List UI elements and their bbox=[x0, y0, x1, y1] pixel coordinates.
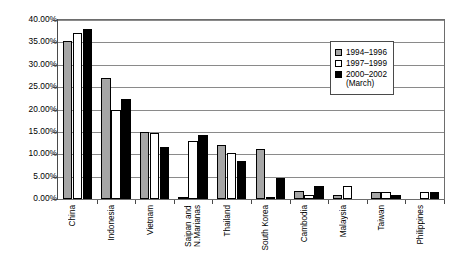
bar bbox=[237, 161, 247, 199]
bar-group bbox=[101, 20, 131, 199]
bar bbox=[217, 145, 227, 199]
legend-item: 2000–2002 (March) bbox=[335, 70, 387, 89]
bar bbox=[276, 178, 286, 199]
x-axis-tick-mark bbox=[367, 200, 368, 204]
y-axis-tick-label: 20.00% bbox=[5, 105, 57, 113]
x-axis-tick-label: Indonesia bbox=[107, 205, 116, 241]
bar-group bbox=[294, 20, 324, 199]
x-axis-tick-label: South Korea bbox=[261, 205, 270, 251]
x-axis-tick-label: Malaysia bbox=[339, 205, 348, 237]
x-axis-tick-mark bbox=[174, 200, 175, 204]
bar bbox=[294, 191, 304, 199]
x-axis-tick-label: Saipan and N.Marianas bbox=[184, 205, 202, 247]
bar-group bbox=[410, 20, 440, 199]
x-axis-tick-mark bbox=[135, 200, 136, 204]
legend-label: 2000–2002 (March) bbox=[346, 70, 387, 89]
bar bbox=[420, 192, 430, 199]
bar bbox=[140, 132, 150, 199]
bar bbox=[63, 41, 73, 199]
bar bbox=[314, 186, 324, 199]
bar bbox=[333, 195, 343, 199]
bar-group bbox=[217, 20, 247, 199]
x-axis-tick-label: Cambodia bbox=[300, 205, 309, 242]
bar bbox=[160, 147, 170, 199]
bar bbox=[188, 141, 198, 199]
y-axis-tick-label: 35.00% bbox=[5, 37, 57, 45]
x-axis-tick-label: Thailand bbox=[223, 205, 232, 236]
legend-label: 1994–1996 bbox=[346, 48, 387, 58]
legend-item: 1994–1996 bbox=[335, 48, 387, 58]
y-axis-tick-label: 0.00% bbox=[5, 194, 57, 202]
bar bbox=[83, 29, 93, 199]
x-axis-tick-mark bbox=[405, 200, 406, 204]
legend-item: 1997–1999 bbox=[335, 59, 387, 69]
x-axis-tick-label: China bbox=[68, 205, 77, 226]
bar bbox=[430, 192, 440, 199]
x-axis-tick-label: Taiwan bbox=[377, 205, 386, 231]
y-axis-tick-label: 10.00% bbox=[5, 149, 57, 157]
bar bbox=[343, 186, 353, 199]
bar bbox=[391, 195, 401, 199]
bar bbox=[73, 33, 83, 199]
bar bbox=[266, 197, 276, 199]
bar bbox=[256, 149, 266, 199]
y-axis-tick-label: 25.00% bbox=[5, 82, 57, 90]
x-axis-tick-mark bbox=[290, 200, 291, 204]
x-axis-tick-mark bbox=[444, 200, 445, 204]
chart-legend: 1994–1996 1997–1999 2000–2002 (March) bbox=[330, 41, 394, 95]
y-axis-labels: 40.00%35.00%30.00%25.00%20.00%15.00%10.0… bbox=[0, 0, 57, 273]
bar bbox=[150, 133, 160, 199]
y-axis-tick-label: 15.00% bbox=[5, 127, 57, 135]
bar bbox=[304, 195, 314, 199]
x-axis-tick-mark bbox=[97, 200, 98, 204]
x-axis-tick-mark bbox=[251, 200, 252, 204]
y-axis-tick-label: 40.00% bbox=[5, 15, 57, 23]
bar-chart: 40.00%35.00%30.00%25.00%20.00%15.00%10.0… bbox=[0, 0, 453, 273]
y-axis-tick-label: 5.00% bbox=[5, 172, 57, 180]
legend-swatch-icon bbox=[335, 49, 342, 56]
bar bbox=[111, 110, 121, 199]
bar bbox=[227, 153, 237, 199]
legend-label: 1997–1999 bbox=[346, 59, 387, 69]
bar-group bbox=[178, 20, 208, 199]
bar bbox=[198, 135, 208, 199]
bar bbox=[101, 78, 111, 199]
x-axis-tick-mark bbox=[212, 200, 213, 204]
legend-swatch-icon bbox=[335, 60, 342, 67]
x-axis-tick-label: Philippines bbox=[416, 205, 425, 245]
bar bbox=[381, 192, 391, 199]
bar-group bbox=[256, 20, 286, 199]
bar bbox=[121, 99, 131, 199]
x-axis-tick-mark bbox=[328, 200, 329, 204]
bar-group bbox=[140, 20, 170, 199]
legend-swatch-icon bbox=[335, 71, 342, 78]
y-axis-tick-mark bbox=[53, 199, 58, 200]
x-axis-tick-label: Vietnam bbox=[146, 205, 155, 235]
bar bbox=[178, 197, 188, 199]
bar-group bbox=[63, 20, 93, 199]
y-axis-tick-label: 30.00% bbox=[5, 60, 57, 68]
bar bbox=[371, 192, 381, 199]
